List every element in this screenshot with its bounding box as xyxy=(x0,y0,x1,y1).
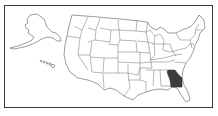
state-alaska xyxy=(10,14,61,49)
state-hawaii xyxy=(40,60,54,67)
us-map xyxy=(0,0,218,116)
contiguous-us-outline xyxy=(64,15,205,102)
